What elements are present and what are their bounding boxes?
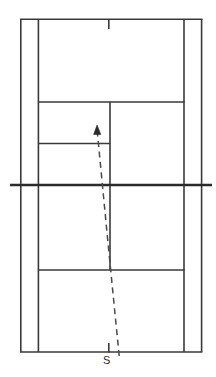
trajectory-arrowhead bbox=[94, 125, 101, 134]
court-svg-canvas bbox=[0, 0, 216, 377]
serve-origin-label: S bbox=[103, 355, 110, 366]
serve-trajectory bbox=[97, 133, 119, 356]
tennis-court-diagram: S bbox=[0, 0, 216, 377]
